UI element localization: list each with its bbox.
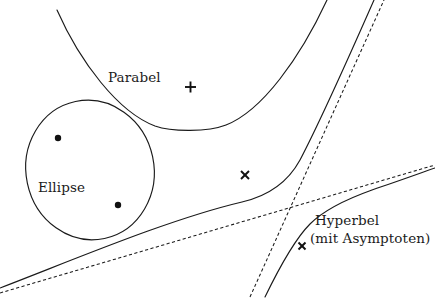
ellipse-label: Ellipse <box>38 180 85 196</box>
parabola-group <box>57 0 327 130</box>
ellipse-focus-1-dot-icon <box>55 135 61 141</box>
parabola-focus-plus-marker-icon <box>185 82 196 93</box>
hyperbola-focus-cross-marker-icon <box>299 243 306 250</box>
hyperbola-center-cross-marker-icon <box>241 171 249 179</box>
hyperbola-sublabel: (mit Asymptoten) <box>310 231 430 247</box>
asymptote-steep <box>250 0 384 297</box>
hyperbola-label: Hyperbel <box>315 213 379 229</box>
hyperbola-group <box>0 0 435 297</box>
parabola-label: Parabel <box>108 70 161 86</box>
ellipse-curve <box>13 88 167 252</box>
ellipse-group <box>13 88 167 252</box>
ellipse-focus-2-dot-icon <box>115 202 121 208</box>
conic-sections-figure: Parabel Ellipse Hyperbel (mit Asymptoten… <box>0 0 435 300</box>
parabola-curve <box>57 0 327 130</box>
asymptotes-group <box>0 0 435 297</box>
conic-sections-canvas <box>0 0 435 300</box>
